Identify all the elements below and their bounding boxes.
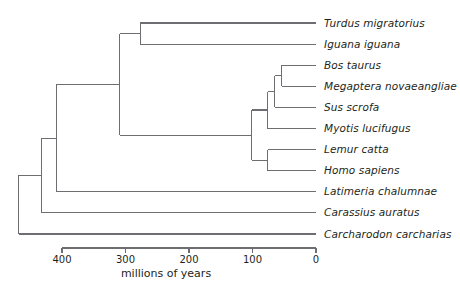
taxon-label-lemur-catta: Lemur catta (324, 144, 389, 155)
axis-tick-label-300: 300 (106, 255, 146, 265)
axis-title: millions of years (0, 268, 332, 279)
taxon-label-megaptera-novaeangliae: Megaptera novaeangliae (324, 81, 457, 92)
taxon-label-turdus-migratorius: Turdus migratorius (324, 18, 425, 29)
axis-tick-label-100: 100 (233, 255, 273, 265)
phylogenetic-tree-figure: Turdus migratoriusIguana iguanaBos tauru… (0, 0, 460, 291)
taxon-label-iguana-iguana: Iguana iguana (324, 39, 400, 50)
taxon-label-myotis-lucifugus: Myotis lucifugus (324, 123, 411, 134)
taxon-label-latimeria-chalumnae: Latimeria chalumnae (324, 186, 437, 197)
taxon-label-carassius-auratus: Carassius auratus (324, 207, 420, 218)
axis-tick-label-0: 0 (296, 255, 336, 265)
axis-tick-label-400: 400 (42, 255, 82, 265)
axis-tick-label-200: 200 (169, 255, 209, 265)
taxon-label-bos-taurus: Bos taurus (324, 60, 381, 71)
taxon-label-homo-sapiens: Homo sapiens (324, 165, 400, 176)
taxon-label-carcharodon-carcharias: Carcharodon carcharias (324, 229, 452, 240)
taxon-label-sus-scrofa: Sus scrofa (324, 102, 379, 113)
